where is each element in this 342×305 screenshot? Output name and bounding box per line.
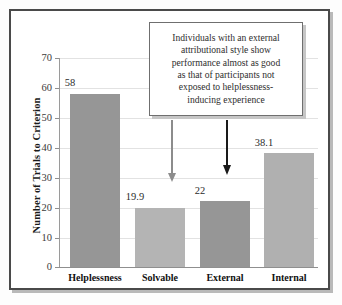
bar-external[interactable] [200, 201, 250, 267]
y-tick-label: 20 [22, 202, 52, 213]
callout-line-2: attributional style show [181, 44, 271, 55]
callout-line-1: Individuals with an external [172, 32, 279, 43]
x-axis-line [59, 267, 318, 268]
callout-line-3: performance almost as good [172, 57, 280, 68]
arrow-head [223, 165, 231, 175]
arrow-head [168, 173, 176, 182]
callout-line-6: inducing experience [187, 94, 265, 105]
callout-line-5: exposed to helplessness- [179, 81, 273, 92]
figure-container: Number of Trials to Criterion 70 60 50 4… [0, 0, 342, 305]
callout-text: Individuals with an external attribution… [166, 29, 286, 109]
y-axis-ticks: 70 60 50 40 30 20 10 0 [20, 0, 52, 305]
bar-internal[interactable] [264, 153, 314, 267]
bar-solvable[interactable] [135, 208, 185, 267]
y-tick-label: 10 [22, 232, 52, 243]
bar-helplessness[interactable] [70, 94, 120, 267]
y-tick-label: 0 [22, 261, 52, 272]
bar-value-external: 22 [175, 185, 225, 196]
bar-value-internal: 38.1 [239, 137, 289, 148]
x-axis-labels: Helplessness Solvable External Internal [60, 272, 318, 288]
arrow-shaft [171, 120, 173, 173]
x-label-internal: Internal [249, 272, 329, 283]
y-tick-label: 50 [22, 112, 52, 123]
callout-box: Individuals with an external attribution… [149, 22, 303, 116]
y-tick-label: 40 [22, 142, 52, 153]
y-tick-label: 30 [22, 172, 52, 183]
callout-line-4: as that of participants not [178, 69, 275, 80]
y-tick-label: 70 [22, 52, 52, 63]
arrow-shaft [226, 120, 228, 165]
bar-value-helplessness: 58 [45, 77, 95, 88]
bar-value-solvable: 19.9 [110, 191, 160, 202]
